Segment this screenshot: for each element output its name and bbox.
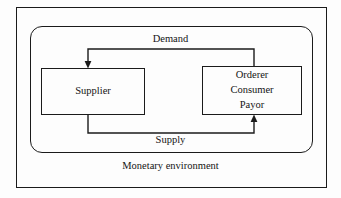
monetary-environment-label: Monetary environment (0, 160, 341, 171)
entity-orderer-label-1: Consumer (230, 83, 273, 98)
entity-orderer-label-0: Orderer (236, 68, 269, 83)
flow-label-supply: Supply (0, 134, 341, 145)
flow-label-demand: Demand (0, 33, 341, 44)
entity-supplier: Supplier (41, 68, 145, 115)
diagram-root: Supplier Orderer Consumer Payor Demand S… (0, 0, 341, 198)
entity-supplier-label-0: Supplier (75, 84, 111, 99)
entity-orderer-label-2: Payor (240, 98, 265, 113)
entity-orderer: Orderer Consumer Payor (202, 66, 302, 115)
